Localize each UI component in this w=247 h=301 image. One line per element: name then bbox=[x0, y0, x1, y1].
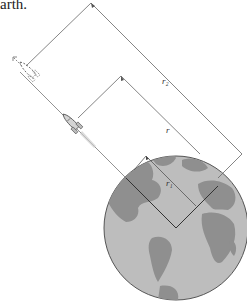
exhaust-plume bbox=[80, 131, 96, 148]
r-dimension bbox=[78, 76, 200, 154]
motion-arrow-icon bbox=[13, 57, 22, 66]
r2-dimension bbox=[26, 3, 242, 178]
label-r1: r₁ bbox=[166, 178, 173, 188]
label-r2: r₂ bbox=[162, 76, 169, 86]
label-r: r bbox=[166, 125, 170, 135]
caption-text: arth. bbox=[0, 0, 27, 13]
rocket-icon bbox=[60, 111, 83, 134]
diagram: arth. bbox=[0, 0, 247, 301]
earth-globe bbox=[103, 152, 247, 300]
rocket-ghost-icon bbox=[17, 59, 40, 82]
